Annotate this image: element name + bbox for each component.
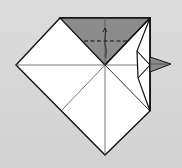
origami-diagram	[0, 0, 182, 168]
